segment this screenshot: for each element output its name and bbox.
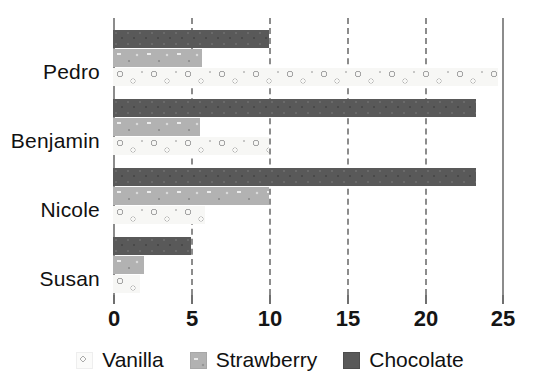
bar-group-susan xyxy=(113,237,503,299)
bar-group-pedro xyxy=(113,30,503,92)
legend-swatch-strawberry-icon xyxy=(190,352,207,369)
x-tick-label-25: 25 xyxy=(491,306,515,332)
y-axis-category-labels: Pedro Benjamin Nicole Susan xyxy=(0,18,108,295)
legend-swatch-vanilla-icon xyxy=(76,352,93,369)
x-tick-20 xyxy=(425,295,427,304)
bar-susan-vanilla[interactable] xyxy=(113,275,140,293)
bar-nicole-strawberry[interactable] xyxy=(113,187,269,205)
legend-label-chocolate: Chocolate xyxy=(369,348,464,372)
bar-benjamin-strawberry[interactable] xyxy=(113,118,200,136)
x-tick-15 xyxy=(347,295,349,304)
bar-group-nicole xyxy=(113,168,503,230)
bar-susan-chocolate[interactable] xyxy=(113,237,191,255)
x-tick-label-0: 0 xyxy=(108,306,120,332)
chart-legend: Vanilla Strawberry Chocolate xyxy=(0,348,540,372)
bar-nicole-chocolate[interactable] xyxy=(113,168,476,186)
y-axis-label-2: Nicole xyxy=(40,198,100,222)
x-tick-label-5: 5 xyxy=(186,306,198,332)
bar-pedro-vanilla[interactable] xyxy=(113,68,498,86)
legend-item-chocolate[interactable]: Chocolate xyxy=(343,348,464,372)
legend-swatch-chocolate-icon xyxy=(343,352,360,369)
x-tick-25 xyxy=(502,295,504,304)
bar-susan-strawberry[interactable] xyxy=(113,256,144,274)
y-axis-label-1: Benjamin xyxy=(11,129,100,153)
x-tick-0 xyxy=(113,295,115,304)
x-tick-label-10: 10 xyxy=(258,306,282,332)
x-axis: 0 5 10 15 20 25 xyxy=(113,295,503,335)
bar-pedro-chocolate[interactable] xyxy=(113,30,269,48)
bar-pedro-strawberry[interactable] xyxy=(113,49,202,67)
bar-benjamin-vanilla[interactable] xyxy=(113,137,269,155)
legend-item-vanilla[interactable]: Vanilla xyxy=(76,348,163,372)
legend-label-strawberry: Strawberry xyxy=(216,348,318,372)
y-axis-label-0: Pedro xyxy=(43,60,100,84)
y-axis-label-3: Susan xyxy=(39,267,100,291)
x-tick-10 xyxy=(269,295,271,304)
legend-label-vanilla: Vanilla xyxy=(102,348,163,372)
bar-benjamin-chocolate[interactable] xyxy=(113,99,476,117)
bar-nicole-vanilla[interactable] xyxy=(113,206,205,224)
bar-group-benjamin xyxy=(113,99,503,161)
legend-item-strawberry[interactable]: Strawberry xyxy=(190,348,318,372)
x-tick-label-15: 15 xyxy=(336,306,360,332)
plot-area xyxy=(113,18,503,295)
bar-chart: Pedro Benjamin Nicole Susan xyxy=(0,0,540,391)
x-tick-5 xyxy=(191,295,193,304)
x-tick-label-20: 20 xyxy=(414,306,438,332)
